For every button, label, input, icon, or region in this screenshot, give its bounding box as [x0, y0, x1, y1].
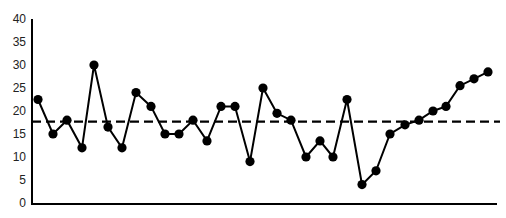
data-point-marker — [315, 136, 324, 145]
data-point-marker — [188, 116, 197, 125]
y-tick-label: 10 — [13, 150, 27, 164]
y-tick-label: 20 — [13, 104, 27, 118]
y-tick-label: 0 — [19, 196, 26, 210]
data-point-marker — [89, 60, 98, 69]
y-axis-tick-labels: 0510152025303540 — [13, 12, 27, 210]
data-point-marker — [371, 166, 380, 175]
y-tick-label: 35 — [13, 35, 27, 49]
data-point-marker — [469, 74, 478, 83]
data-point-marker — [230, 102, 239, 111]
data-point-marker — [455, 81, 464, 90]
data-point-marker — [146, 102, 155, 111]
y-tick-label: 40 — [13, 12, 27, 26]
data-point-marker — [385, 129, 394, 138]
data-point-marker — [131, 88, 140, 97]
data-point-marker — [414, 116, 423, 125]
y-tick-label: 15 — [13, 127, 27, 141]
data-point-marker — [342, 95, 351, 104]
data-point-markers — [33, 60, 492, 189]
y-tick-label: 30 — [13, 58, 27, 72]
data-point-marker — [245, 157, 254, 166]
data-point-marker — [62, 116, 71, 125]
data-point-marker — [328, 152, 337, 161]
data-point-marker — [483, 67, 492, 76]
data-point-marker — [301, 152, 310, 161]
data-point-marker — [400, 120, 409, 129]
data-point-marker — [33, 95, 42, 104]
y-tick-label: 5 — [19, 173, 26, 187]
data-point-marker — [202, 136, 211, 145]
y-tick-label: 25 — [13, 81, 27, 95]
data-point-marker — [174, 129, 183, 138]
run-chart: 0510152025303540 — [0, 0, 506, 218]
data-point-marker — [428, 106, 437, 115]
data-point-marker — [48, 129, 57, 138]
data-point-marker — [117, 143, 126, 152]
data-point-marker — [357, 180, 366, 189]
data-point-marker — [216, 102, 225, 111]
data-point-marker — [160, 129, 169, 138]
data-point-marker — [258, 83, 267, 92]
data-point-marker — [272, 109, 281, 118]
data-point-marker — [441, 102, 450, 111]
data-point-marker — [77, 143, 86, 152]
data-point-marker — [103, 123, 112, 132]
data-point-marker — [286, 116, 295, 125]
